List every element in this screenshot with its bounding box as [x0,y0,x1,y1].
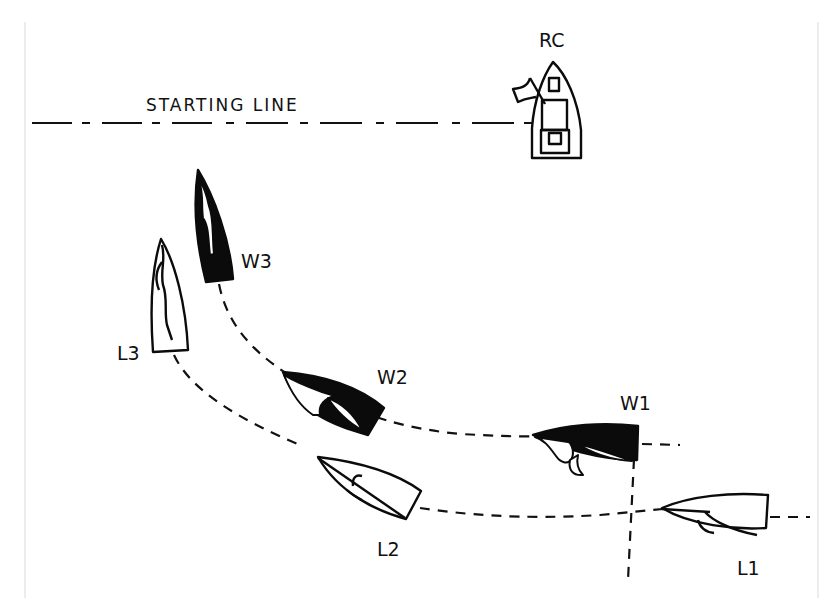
sailing-diagram: STARTING LINE RC W3 L3 W2 [0,0,833,598]
boat-label-l2: L2 [377,538,400,560]
boat-label-w2: W2 [377,366,408,388]
boat-label-l1: L1 [737,557,760,579]
boat-label-w1: W1 [620,392,651,414]
boat-w1 [533,424,638,475]
boat-w2 [283,372,384,435]
boat-w3 [196,170,233,282]
boat-label-l3: L3 [117,342,140,364]
boat-label-w3: W3 [241,250,272,272]
starting-line-label: STARTING LINE [146,95,299,115]
overlap-line [628,459,634,580]
committee-boat-label: RC [539,29,565,51]
boat-l1 [662,494,768,535]
boat-l2 [318,457,421,519]
windward-track [219,284,680,445]
boat-l3 [152,239,188,352]
committee-boat [513,62,581,158]
